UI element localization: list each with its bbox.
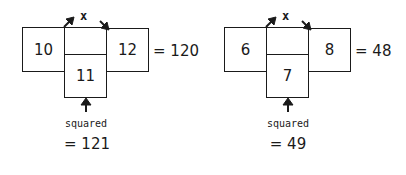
middle-number-box: 7 (266, 54, 309, 98)
multiply-label: x (282, 9, 289, 23)
product-result: = 48 (355, 42, 391, 60)
diagram-10-11-12: 10 11 12 = 120 x squared = 121 (0, 0, 203, 175)
middle-number: 7 (283, 67, 293, 85)
left-number-box: 10 (22, 27, 65, 72)
right-number-box: 12 (106, 28, 149, 72)
right-number-box: 8 (308, 28, 351, 72)
middle-number: 11 (76, 67, 95, 85)
left-number: 10 (34, 41, 53, 59)
right-number: 8 (325, 41, 335, 59)
squared-result: = 121 (64, 135, 108, 153)
left-number-box: 6 (224, 27, 267, 72)
middle-number-box: 11 (64, 54, 107, 98)
multiply-label: x (80, 9, 87, 23)
arrow-up-right-icon (64, 20, 71, 27)
diagram-6-7-8: 6 7 8 = 48 x squared = 49 (202, 0, 405, 175)
squared-result: = 49 (266, 135, 310, 153)
left-number: 6 (241, 41, 251, 59)
squared-label: squared (266, 118, 310, 129)
right-number: 12 (118, 41, 137, 59)
product-result: = 120 (153, 42, 199, 60)
arrow-up-right-icon (266, 20, 273, 27)
squared-label: squared (64, 118, 108, 129)
